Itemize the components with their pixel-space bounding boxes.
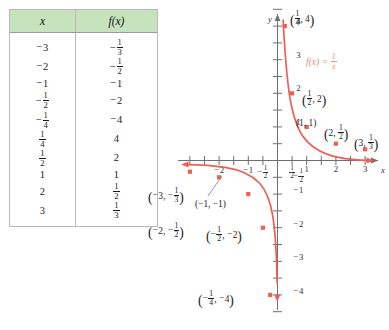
- table-row: 122: [10, 149, 157, 168]
- table-row: 212: [10, 182, 157, 201]
- cell-x: 14: [10, 130, 75, 149]
- graph-svg: −2−1−12121234321−12−1−2−3−4 x y: [150, 0, 389, 330]
- function-equation-label: f(x) = 1x: [306, 52, 337, 71]
- point-label-3-third: (3, 13): [354, 134, 378, 151]
- point-label-1-1: (1, 1): [296, 118, 316, 128]
- table-row: −14−4: [10, 111, 157, 130]
- y-tick-label: −3: [277, 252, 321, 274]
- cell-x: −1: [10, 76, 75, 91]
- column-header-x: x: [10, 10, 75, 33]
- cell-fx: −12: [75, 57, 157, 76]
- table-header-row: x f(x): [10, 10, 157, 33]
- values-table: x f(x) −3−13−2−12−1−1−12−2−14−4144122112…: [10, 10, 157, 226]
- point-label-quarter-4: (14, 4): [290, 10, 314, 27]
- y-tick-label: −4: [277, 286, 321, 308]
- cell-fx: 4: [75, 130, 157, 149]
- cell-x: −14: [10, 111, 75, 130]
- cell-fx: 13: [75, 201, 157, 226]
- cell-x: 2: [10, 182, 75, 201]
- data-point: [268, 293, 272, 297]
- data-point: [290, 91, 294, 95]
- point-label-neg2-neghalf: (−2, −12): [148, 222, 184, 239]
- cell-fx: −4: [75, 111, 157, 130]
- data-point: [283, 24, 287, 28]
- table-row: −1−1: [10, 76, 157, 91]
- cell-fx: −13: [75, 33, 157, 58]
- y-tick-label: −1: [277, 185, 321, 207]
- data-point: [334, 142, 338, 146]
- cell-x: 3: [10, 201, 75, 226]
- cell-fx: 12: [75, 182, 157, 201]
- table-row: −3−13: [10, 33, 157, 58]
- table-row: −2−12: [10, 57, 157, 76]
- cell-x: −2: [10, 57, 75, 76]
- table-body: −3−13−2−12−1−1−12−2−14−414412211212313: [10, 33, 157, 227]
- point-label-neg1-neg1: (−1, −1): [195, 199, 226, 209]
- graph-panel: −2−1−12121234321−12−1−2−3−4 x y (14, 4) …: [150, 0, 389, 330]
- table-head: x f(x): [10, 10, 157, 33]
- column-header-fx: f(x): [75, 10, 157, 33]
- data-point: [261, 226, 265, 230]
- point-label-neg3-negthird: (−3, −13): [148, 187, 184, 204]
- cell-fx: −2: [75, 91, 157, 110]
- point-label-half-2: (12, 2): [302, 90, 326, 107]
- figure-root: x f(x) −3−13−2−12−1−1−12−2−14−4144122112…: [0, 0, 389, 330]
- cell-fx: −1: [75, 76, 157, 91]
- y-axis-label: y: [267, 14, 272, 24]
- cell-x: −12: [10, 91, 75, 110]
- point-label-negquarter-neg4: (−14, −4): [198, 290, 234, 307]
- table-row: 144: [10, 130, 157, 149]
- cell-x: 1: [10, 168, 75, 183]
- y-tick-label: −2: [277, 219, 321, 241]
- point-label-2-half: (2, 12): [324, 124, 348, 141]
- data-point: [246, 192, 250, 196]
- data-point: [188, 170, 192, 174]
- table-row: 313: [10, 201, 157, 226]
- cell-x: −3: [10, 33, 75, 58]
- table-row: 11: [10, 168, 157, 183]
- cell-fx: 1: [75, 168, 157, 183]
- table-row: −12−2: [10, 91, 157, 110]
- cell-fx: 2: [75, 149, 157, 168]
- point-label-neghalf-neg2: (−12, −2): [206, 226, 242, 243]
- cell-x: 12: [10, 149, 75, 168]
- values-table-panel: x f(x) −3−13−2−12−1−1−12−2−14−4144122112…: [9, 9, 158, 227]
- x-axis-label: x: [380, 165, 385, 175]
